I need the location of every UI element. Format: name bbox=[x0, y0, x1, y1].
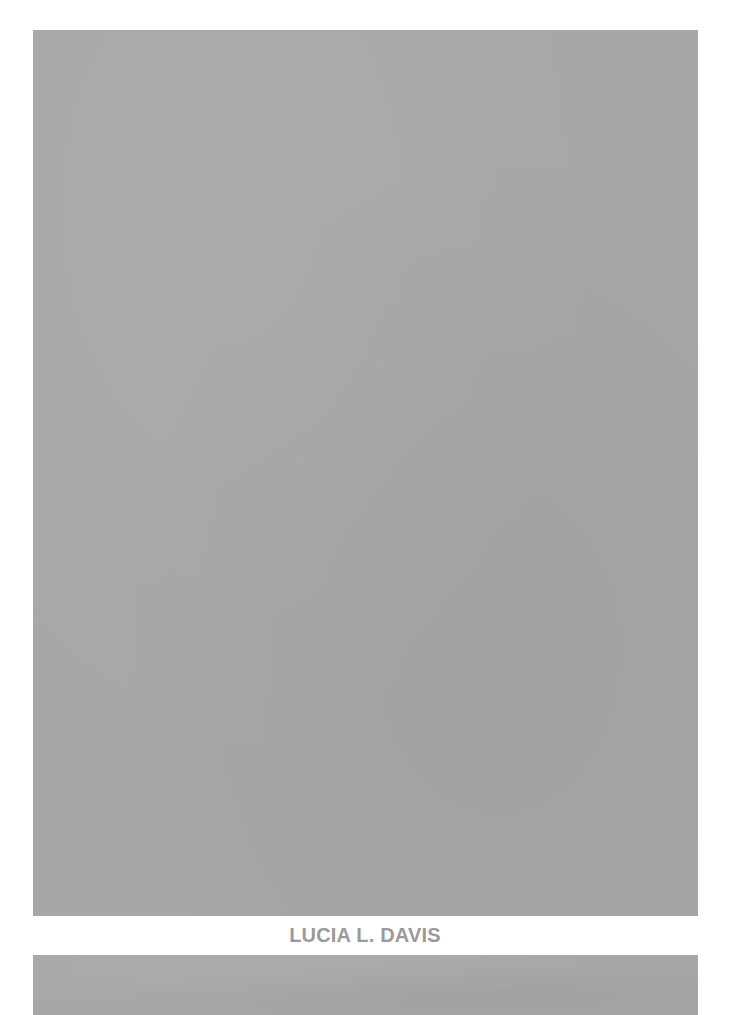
author-name: LUCIA L. DAVIS bbox=[0, 922, 730, 948]
image-placeholder-top bbox=[33, 30, 698, 916]
image-placeholder-bottom bbox=[33, 955, 698, 1015]
